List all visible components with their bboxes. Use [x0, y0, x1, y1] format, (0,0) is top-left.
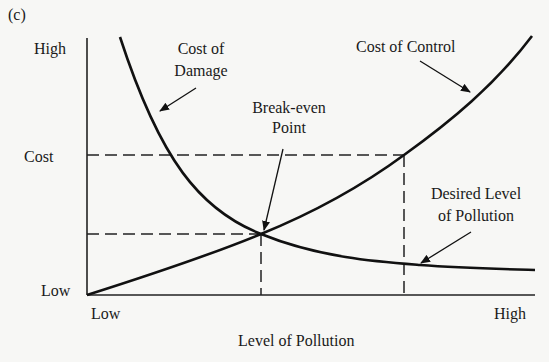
cost-of-control-arrow	[420, 61, 470, 92]
cost-of-damage-arrow	[160, 88, 196, 111]
pollution-cost-diagram	[0, 0, 549, 362]
break-even-arrow	[264, 149, 283, 230]
desired-level-arrow	[421, 232, 471, 263]
cost-of-damage-curve	[120, 37, 535, 270]
dashed-guides	[87, 155, 404, 295]
cost-of-control-curve	[87, 36, 532, 295]
